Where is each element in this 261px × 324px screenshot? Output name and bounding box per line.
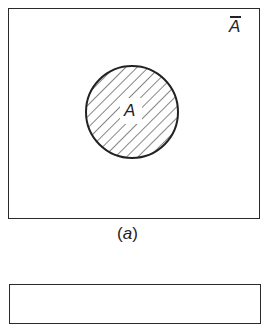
panel-caption: (a) bbox=[117, 224, 138, 244]
overbar bbox=[230, 16, 241, 18]
complement-text: A bbox=[229, 17, 240, 36]
caption-close-paren: ) bbox=[132, 224, 138, 243]
caption-letter: a bbox=[123, 224, 132, 243]
complement-label: A bbox=[229, 17, 240, 37]
universal-set-box-b bbox=[9, 284, 261, 324]
set-label-text: A bbox=[124, 101, 135, 120]
set-label: A bbox=[124, 101, 135, 121]
